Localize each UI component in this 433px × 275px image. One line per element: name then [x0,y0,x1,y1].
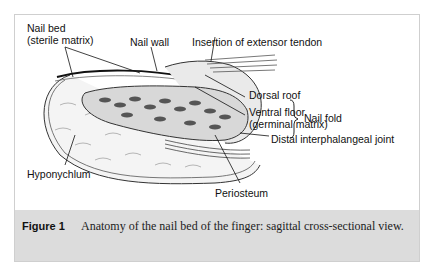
label-ventral-floor: Ventral floor [249,106,305,118]
label-distal-interphalangeal-joint: Distal interphalangeal joint [271,133,394,145]
label-periosteum: Periosteum [215,187,268,199]
figure-caption: Figure 1 Anatomy of the nail bed of the … [15,210,419,261]
caption-figure-number: Figure 1 [22,220,65,232]
label-nail-wall: Nail wall [130,36,169,48]
label-sterile-matrix: (sterile matrix) [27,34,94,46]
caption-text: Anatomy of the nail bed of the finger: s… [81,219,411,234]
label-hyponychium: Hyponychlum [27,168,91,180]
nail-anatomy-illustration: Nail bed (sterile matrix) Nail wall Inse… [15,15,419,210]
label-dorsal-roof: Dorsal roof [249,89,300,101]
figure-frame: Nail bed (sterile matrix) Nail wall Inse… [14,14,420,262]
label-nail-fold: Nail fold [304,112,342,124]
label-nail-bed: Nail bed [27,22,66,34]
label-insertion-extensor-tendon: Insertion of extensor tendon [192,36,322,48]
